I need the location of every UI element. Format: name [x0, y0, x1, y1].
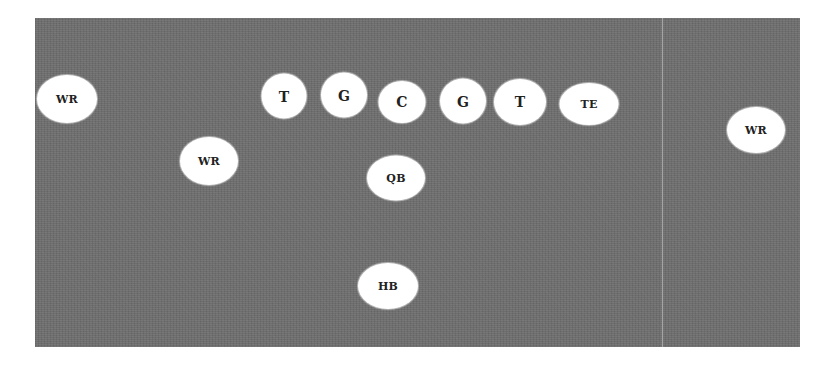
player-label: HB: [378, 281, 398, 292]
player-tight-end: TE: [560, 83, 619, 125]
player-label: T: [515, 95, 526, 109]
player-label: WR: [56, 94, 78, 105]
player-wr-slot: WR: [180, 137, 238, 185]
player-wr-right-wide: WR: [727, 107, 785, 153]
player-label: TE: [581, 99, 598, 110]
player-label: QB: [386, 173, 405, 184]
player-label: WR: [745, 125, 767, 136]
player-right-tackle: T: [494, 79, 546, 125]
player-halfback: HB: [358, 263, 418, 309]
player-wr-left-wide: WR: [37, 75, 97, 123]
player-quarterback: QB: [367, 156, 425, 201]
player-label: G: [457, 94, 469, 108]
field-divider-line: [662, 18, 663, 347]
player-label: WR: [198, 156, 220, 167]
player-left-tackle: T: [262, 74, 307, 119]
player-left-guard: G: [321, 73, 367, 118]
player-label: C: [396, 95, 407, 109]
football-field: WR WR T G C G T TE QB HB WR: [35, 18, 800, 347]
player-right-guard: G: [440, 79, 486, 124]
player-label: G: [338, 88, 350, 102]
player-center: C: [379, 81, 426, 123]
player-label: T: [279, 89, 290, 103]
